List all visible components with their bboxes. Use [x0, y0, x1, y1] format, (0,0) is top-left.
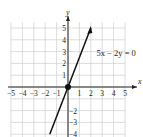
- y-tick-label: 4: [62, 36, 66, 45]
- y-tick-label: 1: [62, 71, 66, 80]
- x-tick-label: −4: [18, 89, 26, 98]
- y-tick-label: 2: [62, 59, 66, 68]
- x-tick-label: −1: [53, 89, 61, 98]
- y-axis-label: y: [65, 8, 70, 17]
- y-tick-label: 5: [62, 24, 66, 33]
- x-tick-label: 1: [78, 89, 82, 98]
- y-tick-label: −3: [69, 118, 77, 127]
- x-tick-label: 2: [89, 89, 93, 98]
- x-axis-arrow-icon: [132, 85, 137, 89]
- y-tick-label: −4: [69, 130, 77, 137]
- x-tick-label: 3: [100, 89, 104, 98]
- y-tick-label: −2: [69, 107, 77, 116]
- x-tick-label: −3: [30, 89, 38, 98]
- x-tick-label: 4: [112, 89, 116, 98]
- x-axis-label: x: [137, 77, 142, 86]
- coordinate-plane: xy−5−4−3−2−11234512345−2−3−45x − 2y = 0: [0, 0, 143, 137]
- graph-figure: xy−5−4−3−2−11234512345−2−3−45x − 2y = 0: [0, 0, 143, 137]
- y-tick-label: 3: [62, 48, 66, 57]
- origin-point: [65, 84, 71, 90]
- line-arrow-icon: [87, 26, 92, 34]
- x-tick-label: −2: [41, 89, 49, 98]
- equation-label: 5x − 2y = 0: [97, 48, 136, 58]
- x-tick-label: −5: [7, 89, 15, 98]
- x-tick-label: 5: [123, 89, 127, 98]
